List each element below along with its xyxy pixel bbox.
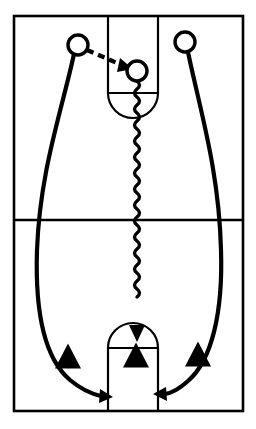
defender-left[interactable]	[55, 344, 81, 369]
top-free-throw-arc	[108, 93, 158, 118]
cut-left-baseline-path	[37, 54, 101, 396]
dribble-squiggle-path	[135, 81, 140, 297]
dribble-arrowhead	[129, 325, 145, 342]
player-right-wing[interactable]	[175, 32, 195, 52]
pass-left-to-center-line	[87, 50, 124, 66]
defender-middle[interactable]	[123, 343, 149, 368]
cut-right-arrowhead	[153, 387, 167, 401]
cut-left-arrowhead	[99, 389, 113, 403]
player-ball-handler[interactable]	[127, 61, 147, 81]
play-diagram-root	[0, 0, 256, 429]
cut-right-baseline-path	[165, 52, 221, 394]
basketball-play-diagram	[0, 0, 256, 429]
player-left-wing[interactable]	[68, 35, 88, 55]
